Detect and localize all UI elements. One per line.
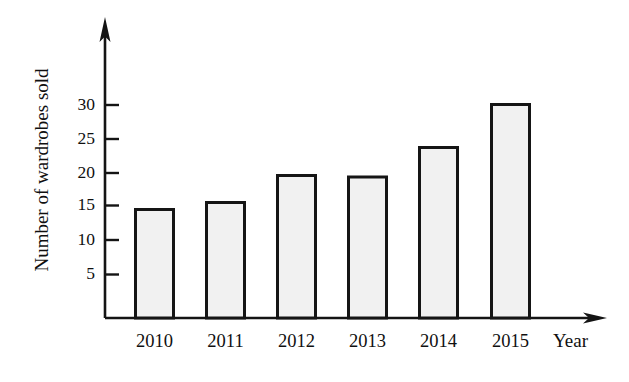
bar-2013 xyxy=(349,177,387,318)
x-tick-label-2013: 2013 xyxy=(349,331,386,351)
x-tick-label-2012: 2012 xyxy=(278,331,315,351)
x-tick-label-2011: 2011 xyxy=(207,331,243,351)
chart-canvas: 5 10 15 20 25 30 2010 2011 2012 2013 201… xyxy=(0,0,629,382)
bar-2014 xyxy=(420,148,458,319)
x-tick-label-2015: 2015 xyxy=(492,331,529,351)
x-axis-title: Year xyxy=(553,330,589,351)
y-tick-label-30: 30 xyxy=(78,94,96,114)
y-tick-label-10: 10 xyxy=(78,229,96,249)
bar-2015 xyxy=(492,105,530,319)
bar-2011 xyxy=(207,203,245,319)
bar-2012 xyxy=(278,176,316,319)
y-tick-label-20: 20 xyxy=(78,162,96,182)
y-tick-label-5: 5 xyxy=(86,263,95,283)
bar-chart-figure: 5 10 15 20 25 30 2010 2011 2012 2013 201… xyxy=(0,0,629,382)
bar-2010 xyxy=(136,210,174,319)
x-tick-label-2010: 2010 xyxy=(136,331,173,351)
x-tick-label-2014: 2014 xyxy=(420,331,457,351)
y-axis-title: Number of wardrobes sold xyxy=(31,68,52,272)
y-tick-label-25: 25 xyxy=(78,128,96,148)
y-tick-label-15: 15 xyxy=(78,194,96,214)
